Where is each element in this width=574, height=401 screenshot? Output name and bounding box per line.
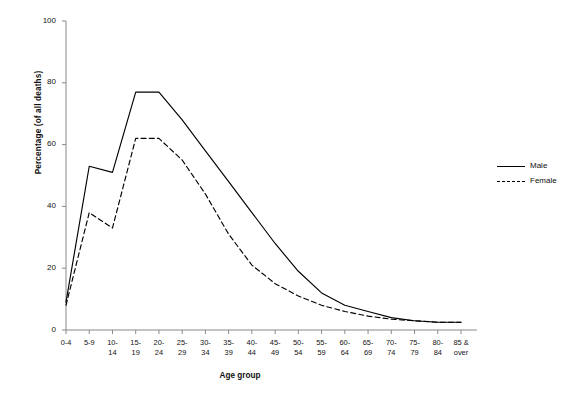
legend: Male Female [497,158,557,188]
y-axis-tick-label: 60 [26,139,56,148]
legend-swatch-solid-icon [497,162,525,170]
line-chart: Percentage (of all deaths) Age group 020… [0,0,574,401]
y-axis-tick-label: 40 [26,201,56,210]
x-axis-tick-label: 85 & over [445,338,477,357]
series-line-female [66,138,461,322]
y-axis-tick-label: 100 [26,16,56,25]
y-axis-tick-label: 20 [26,263,56,272]
series-line-male [66,92,461,322]
legend-label-male: Male [530,161,547,170]
y-axis-tick-label: 0 [26,325,56,334]
legend-swatch-dashed-icon [497,177,525,185]
legend-item-male: Male [497,158,557,173]
legend-item-female: Female [497,173,557,188]
legend-label-female: Female [530,176,557,185]
y-axis-tick-label: 80 [26,77,56,86]
